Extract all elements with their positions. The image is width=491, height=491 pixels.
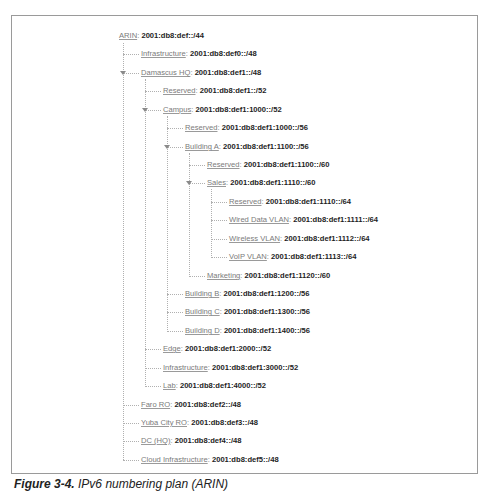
- node-prefix: 2001:db8:def1:1120::/60: [245, 271, 331, 280]
- tree-line-sales: [211, 189, 212, 258]
- tree-elbow: [123, 54, 139, 55]
- tree-node-yuba-city-ro: Yuba City RO: 2001:db8:def3::/48: [141, 417, 258, 429]
- node-link[interactable]: Infrastructure: [141, 49, 186, 58]
- ip-address-tree: ARIN: 2001:db8:def::/44 Infrastructure: …: [12, 16, 477, 473]
- node-link[interactable]: Marketing: [207, 271, 240, 280]
- node-prefix: 2001:db8:def0::/48: [190, 49, 257, 58]
- tree-node-building-d: Building D: 2001:db8:def1:1400::/56: [185, 325, 310, 337]
- collapse-toggle-building-a[interactable]: [164, 145, 170, 149]
- node-prefix: 2001:db8:def::/44: [141, 31, 203, 40]
- node-prefix: 2001:db8:def1:1000::/52: [196, 105, 282, 114]
- tree-node-sales: Sales: 2001:db8:def1:1110::/60: [207, 177, 316, 189]
- node-link[interactable]: Reserved: [185, 123, 218, 132]
- collapse-toggle-campus[interactable]: [142, 108, 148, 112]
- node-link[interactable]: Building C: [185, 307, 220, 316]
- node-link[interactable]: VoIP VLAN: [229, 252, 267, 261]
- node-link[interactable]: DC (HQ): [141, 436, 171, 445]
- node-prefix: 2001:db8:def1:1111::/64: [293, 215, 378, 224]
- tree-node-marketing: Marketing: 2001:db8:def1:1120::/60: [207, 270, 330, 282]
- node-link[interactable]: Damascus HQ: [141, 68, 190, 77]
- tree-line-building-a: [189, 153, 190, 277]
- node-prefix: 2001:db8:def1:1110::/60: [230, 178, 315, 187]
- tree-elbow: [167, 331, 183, 332]
- node-prefix: 2001:db8:def1:2000::/52: [185, 344, 271, 353]
- node-link[interactable]: Campus: [163, 105, 191, 114]
- tree-elbow: [123, 423, 139, 424]
- tree-node-cloud-infrastructure: Cloud Infrastructure: 2001:db8:def5::/48: [141, 454, 279, 466]
- tree-elbow: [167, 128, 183, 129]
- tree-elbow: [211, 220, 227, 221]
- node-link[interactable]: Sales: [207, 178, 226, 187]
- node-link[interactable]: Wired Data VLAN: [229, 215, 289, 224]
- tree-node-building-a: Building A: 2001:db8:def1:1100::/56: [185, 141, 309, 153]
- tree-node-damascus-reserved: Reserved: 2001:db8:def1::/52: [163, 85, 266, 97]
- tree-node-edge: Edge: 2001:db8:def1:2000::/52: [163, 343, 271, 355]
- node-prefix: 2001:db8:def3::/48: [191, 418, 258, 427]
- node-prefix: 2001:db8:def1:1000::/56: [222, 123, 308, 132]
- node-prefix: 2001:db8:def1:1112::/64: [284, 234, 369, 243]
- tree-node-building-c: Building C: 2001:db8:def1:1300::/56: [185, 306, 310, 318]
- node-link[interactable]: Building A: [185, 142, 219, 151]
- tree-node-arin: ARIN: 2001:db8:def::/44: [119, 30, 204, 42]
- tree-node-building-b: Building B: 2001:db8:def1:1200::/56: [185, 288, 310, 300]
- tree-elbow: [211, 202, 227, 203]
- node-prefix: 2001:db8:def1::/52: [200, 86, 267, 95]
- tree-node-voip-vlan: VoIP VLAN: 2001:db8:def1:1113::/64: [229, 251, 356, 263]
- node-prefix: 2001:db8:def1:1110::/64: [266, 197, 351, 206]
- tree-elbow: [145, 386, 161, 387]
- tree-elbow: [145, 368, 161, 369]
- node-link[interactable]: Faro RO: [141, 400, 170, 409]
- node-link[interactable]: Infrastructure: [163, 363, 208, 372]
- tree-elbow: [145, 91, 161, 92]
- node-prefix: 2001:db8:def1:3000::/52: [212, 363, 298, 372]
- node-prefix: 2001:db8:def1:1100::/60: [244, 160, 330, 169]
- tree-node-damascus-hq: Damascus HQ: 2001:db8:def1::/48: [141, 67, 261, 79]
- tree-line-arin: [123, 43, 124, 460]
- node-prefix: 2001:db8:def1:1400::/56: [224, 326, 310, 335]
- tree-node-campus-reserved: Reserved: 2001:db8:def1:1000::/56: [185, 122, 308, 134]
- tree-node-infrastructure: Infrastructure: 2001:db8:def0::/48: [141, 48, 257, 60]
- tree-elbow: [145, 349, 161, 350]
- tree-elbow: [189, 276, 205, 277]
- tree-elbow: [123, 405, 139, 406]
- node-link[interactable]: Wireless VLAN: [229, 234, 280, 243]
- node-prefix: 2001:db8:def1:1300::/56: [224, 307, 310, 316]
- collapse-toggle-damascus-hq[interactable]: [120, 71, 126, 75]
- figure-caption: Figure 3-4. IPv6 numbering plan (ARIN): [14, 477, 228, 491]
- tree-line-damascus-hq: [145, 79, 146, 387]
- figure-frame: ARIN: 2001:db8:def::/44 Infrastructure: …: [11, 15, 478, 474]
- node-prefix: 2001:db8:def1:1113::/64: [271, 252, 356, 261]
- figure-caption-text: IPv6 numbering plan (ARIN): [78, 477, 228, 491]
- tree-node-campus: Campus: 2001:db8:def1:1000::/52: [163, 104, 282, 116]
- tree-node-building-a-reserved: Reserved: 2001:db8:def1:1100::/60: [207, 159, 329, 171]
- tree-node-wireless-vlan: Wireless VLAN: 2001:db8:def1:1112::/64: [229, 233, 370, 245]
- figure-caption-label: Figure 3-4.: [14, 477, 75, 491]
- tree-elbow: [123, 441, 139, 442]
- node-link[interactable]: Reserved: [207, 160, 240, 169]
- collapse-toggle-sales[interactable]: [186, 181, 192, 185]
- tree-elbow: [189, 165, 205, 166]
- tree-elbow: [211, 257, 227, 258]
- tree-node-sales-reserved: Reserved: 2001:db8:def1:1110::/64: [229, 196, 351, 208]
- node-link[interactable]: ARIN: [119, 31, 137, 40]
- tree-node-wired-data-vlan: Wired Data VLAN: 2001:db8:def1:1111::/64: [229, 214, 378, 226]
- tree-node-lab: Lab: 2001:db8:def1:4000::/52: [163, 380, 266, 392]
- tree-node-dc-hq: DC (HQ): 2001:db8:def4::/48: [141, 435, 241, 447]
- node-link[interactable]: Edge: [163, 344, 181, 353]
- tree-node-damascus-infrastructure: Infrastructure: 2001:db8:def1:3000::/52: [163, 362, 298, 374]
- node-link[interactable]: Building B: [185, 289, 219, 298]
- tree-elbow: [123, 460, 139, 461]
- node-prefix: 2001:db8:def1:1100::/56: [223, 142, 309, 151]
- node-link[interactable]: Building D: [185, 326, 220, 335]
- node-prefix: 2001:db8:def5::/48: [212, 455, 279, 464]
- node-link[interactable]: Lab: [163, 381, 176, 390]
- node-prefix: 2001:db8:def4::/48: [175, 436, 242, 445]
- node-link[interactable]: Reserved: [163, 86, 196, 95]
- node-prefix: 2001:db8:def1::/48: [195, 68, 262, 77]
- tree-elbow: [211, 239, 227, 240]
- node-link[interactable]: Cloud Infrastructure: [141, 455, 208, 464]
- node-link[interactable]: Yuba City RO: [141, 418, 187, 427]
- tree-elbow: [167, 294, 183, 295]
- node-prefix: 2001:db8:def2::/48: [174, 400, 241, 409]
- node-link[interactable]: Reserved: [229, 197, 262, 206]
